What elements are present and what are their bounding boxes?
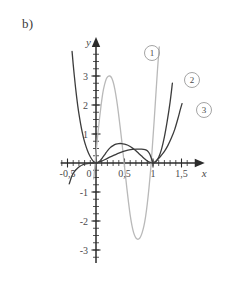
x-axis-label: x bbox=[201, 167, 207, 179]
figure-panel: b) -0,500,511,5321-1-2-3 xy 123 bbox=[0, 0, 227, 281]
minor-ticks-group bbox=[62, 54, 187, 257]
y-tick-label: -1 bbox=[80, 187, 88, 198]
curve-tag-1: 1 bbox=[145, 46, 160, 61]
curve-tag-number: 1 bbox=[150, 48, 155, 58]
coordinate-plot: -0,500,511,5321-1-2-3 xy 123 bbox=[0, 0, 227, 281]
curve-tag-2: 2 bbox=[185, 73, 200, 88]
x-tick-label: 0 bbox=[87, 168, 92, 179]
x-tick-label: 0,5 bbox=[118, 168, 131, 179]
y-tick-label: -3 bbox=[80, 245, 88, 256]
y-tick-label: 2 bbox=[83, 100, 88, 111]
y-axis-label: y bbox=[85, 36, 91, 48]
y-tick-label: -2 bbox=[80, 216, 88, 227]
x-axis-arrowhead bbox=[195, 159, 205, 167]
curve-1 bbox=[94, 47, 160, 239]
y-tick-label: 3 bbox=[83, 71, 88, 82]
y-axis-arrowhead bbox=[92, 37, 100, 47]
panel-label: b) bbox=[22, 16, 33, 32]
y-tick-label: 1 bbox=[83, 129, 88, 140]
x-tick-label: 1 bbox=[151, 168, 156, 179]
curve-tag-number: 3 bbox=[202, 105, 207, 115]
curve-tag-3: 3 bbox=[197, 103, 212, 118]
x-tick-label: 1,5 bbox=[175, 168, 188, 179]
curve-tag-number: 2 bbox=[190, 75, 195, 85]
x-tick-label: -0,5 bbox=[60, 168, 76, 179]
